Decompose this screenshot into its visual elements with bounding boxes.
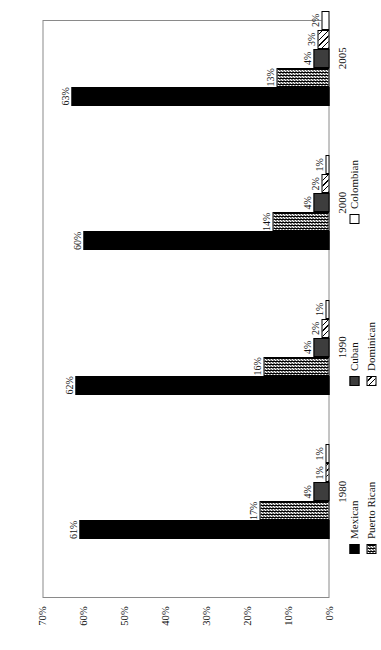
y-axis-tick-label: 20% bbox=[242, 606, 253, 626]
bar-rect: 4% bbox=[313, 338, 329, 357]
legend-swatch-cuban-icon bbox=[349, 376, 359, 386]
legend-item-colombian[interactable]: Colombian bbox=[348, 160, 359, 224]
x-axis-tick-label-1980: 1980 bbox=[335, 481, 347, 503]
bar-rect: 1% bbox=[325, 463, 329, 482]
legend-swatch-colombian-icon bbox=[349, 214, 359, 224]
legend-label: Mexican bbox=[348, 501, 359, 539]
legend-label: Colombian bbox=[348, 160, 359, 209]
bar-rect: 2% bbox=[321, 319, 329, 338]
y-axis-tick-label: 60% bbox=[78, 606, 89, 626]
bar-rect: 63% bbox=[71, 87, 329, 106]
bar-rect: 4% bbox=[313, 193, 329, 212]
chart-legend: MexicanCubanColombianPuerto RicanDominic… bbox=[346, 84, 380, 554]
bar-rect: 2% bbox=[321, 11, 329, 30]
legend-label: Dominican bbox=[365, 322, 376, 371]
bar-rect: 4% bbox=[313, 49, 329, 68]
bars-layer: 61%17%4%1%1%62%16%4%2%1%60%14%4%2%1%63%1… bbox=[42, 20, 329, 598]
legend-label: Cuban bbox=[348, 342, 359, 371]
bar-rect: 16% bbox=[263, 357, 329, 376]
chart-area: 70%60%50%40%30%20%10%0% 61%17%4%1%1%62%1… bbox=[0, 0, 381, 650]
legend-row: Puerto RicanDominican bbox=[363, 84, 378, 554]
bar-value-label: 4% bbox=[301, 485, 312, 498]
bar-value-label: 61% bbox=[67, 521, 78, 539]
bar-value-label: 2% bbox=[309, 14, 320, 27]
legend-item-mexican[interactable]: Mexican bbox=[348, 501, 359, 554]
chart-figure: 70%60%50%40%30%20%10%0% 61%17%4%1%1%62%1… bbox=[0, 0, 381, 650]
legend-swatch-puertorican-icon bbox=[366, 544, 376, 554]
bar-value-label: 4% bbox=[301, 52, 312, 65]
bar-puertorican-1980[interactable]: 17% bbox=[42, 501, 329, 520]
bar-value-label: 13% bbox=[264, 68, 275, 86]
bar-rect: 17% bbox=[259, 501, 329, 520]
y-axis-tick-label: 30% bbox=[201, 606, 212, 626]
legend-swatch-dominican-icon bbox=[366, 376, 376, 386]
bar-group-2000: 60%14%4%2%1% bbox=[42, 165, 329, 310]
legend-label: Puerto Rican bbox=[365, 482, 376, 539]
legend-row: MexicanCubanColombian bbox=[346, 84, 361, 554]
x-axis-tick-label-2005: 2005 bbox=[335, 47, 347, 69]
bar-rect: 4% bbox=[313, 482, 329, 501]
bar-rect: 62% bbox=[75, 376, 329, 395]
x-axis-tick-label-1990: 1990 bbox=[335, 336, 347, 358]
legend-item-cuban[interactable]: Cuban bbox=[348, 342, 359, 386]
legend-item-puertorican[interactable]: Puerto Rican bbox=[365, 482, 376, 554]
bar-dominican-1990[interactable]: 2% bbox=[42, 319, 329, 338]
bar-rect: 61% bbox=[79, 520, 329, 539]
bar-rect: 14% bbox=[272, 212, 329, 231]
bar-puertorican-2000[interactable]: 14% bbox=[42, 212, 329, 231]
bar-cuban-1980[interactable]: 4% bbox=[42, 482, 329, 501]
y-axis-tick-label: 50% bbox=[119, 606, 130, 626]
bar-group-2005: 63%13%4%3%2% bbox=[42, 20, 329, 165]
legend-swatch-mexican-icon bbox=[349, 544, 359, 554]
legend-item-dominican[interactable]: Dominican bbox=[365, 322, 376, 386]
y-axis-tick-label: 0% bbox=[324, 606, 335, 620]
bar-value-label: 17% bbox=[247, 502, 258, 520]
bar-puertorican-2005[interactable]: 13% bbox=[42, 68, 329, 87]
bar-mexican-1990[interactable]: 62% bbox=[42, 376, 329, 395]
y-axis: 70%60%50%40%30%20%10%0% bbox=[42, 600, 329, 650]
bar-value-label: 63% bbox=[59, 87, 70, 105]
bar-rect: 13% bbox=[276, 68, 329, 87]
bar-value-label: 1% bbox=[313, 466, 324, 479]
bar-value-label: 4% bbox=[301, 196, 312, 209]
bar-rect: 2% bbox=[321, 174, 329, 193]
bar-value-label: 2% bbox=[309, 177, 320, 190]
bar-colombian-2005[interactable]: 2% bbox=[42, 11, 329, 30]
bar-cuban-1990[interactable]: 4% bbox=[42, 338, 329, 357]
bar-value-label: 4% bbox=[301, 341, 312, 354]
x-axis-tick-label-2000: 2000 bbox=[335, 192, 347, 214]
bar-value-label: 14% bbox=[260, 213, 271, 231]
bar-value-label: 3% bbox=[305, 33, 316, 46]
bar-value-label: 16% bbox=[251, 357, 262, 375]
bar-group-1990: 62%16%4%2%1% bbox=[42, 309, 329, 454]
bar-rect: 3% bbox=[317, 30, 329, 49]
bar-value-label: 60% bbox=[71, 232, 82, 250]
bar-value-label: 2% bbox=[309, 322, 320, 335]
bar-puertorican-1990[interactable]: 16% bbox=[42, 357, 329, 376]
bar-mexican-2000[interactable]: 60% bbox=[42, 231, 329, 250]
bar-value-label: 62% bbox=[63, 376, 74, 394]
y-axis-tick-label: 70% bbox=[37, 606, 48, 626]
bar-cuban-2005[interactable]: 4% bbox=[42, 49, 329, 68]
bar-mexican-2005[interactable]: 63% bbox=[42, 87, 329, 106]
y-axis-tick-label: 10% bbox=[283, 606, 294, 626]
bar-dominican-1980[interactable]: 1% bbox=[42, 463, 329, 482]
bar-dominican-2005[interactable]: 3% bbox=[42, 30, 329, 49]
bar-group-1980: 61%17%4%1%1% bbox=[42, 454, 329, 599]
bar-dominican-2000[interactable]: 2% bbox=[42, 174, 329, 193]
bar-rect: 60% bbox=[83, 231, 329, 250]
bar-cuban-2000[interactable]: 4% bbox=[42, 193, 329, 212]
bar-mexican-1980[interactable]: 61% bbox=[42, 520, 329, 539]
y-axis-tick-label: 40% bbox=[160, 606, 171, 626]
